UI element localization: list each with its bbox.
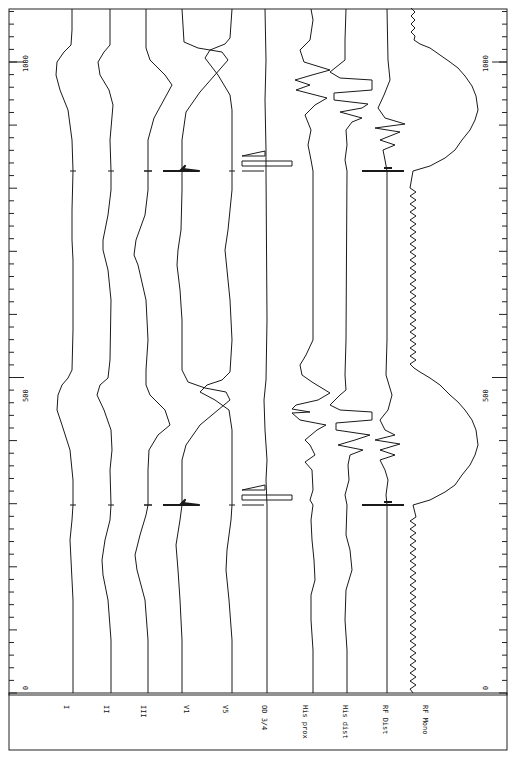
trace-III (134, 9, 172, 693)
right-axis-label-1000: 1000 (482, 55, 490, 72)
label-V1: V1 (182, 705, 190, 713)
right-time-axis (492, 12, 507, 693)
trace-RFMono (410, 8, 478, 693)
label-V5: V5 (221, 705, 229, 713)
right-axis-label-500: 500 (482, 389, 490, 402)
qrs-RFDist-1 (362, 502, 404, 505)
trace-HisDist (330, 9, 372, 693)
label-his-dist: His dist (341, 705, 349, 739)
label-I: I (62, 705, 70, 709)
trace-V5 (200, 9, 232, 693)
right-axis-label-0: 0 (482, 686, 490, 690)
label-his-prox: His prox (301, 705, 309, 739)
plot-frame (9, 9, 507, 695)
qrs-V1-2 (163, 166, 199, 171)
channel-labels: I II III V1 V5 OD 3/4 His prox His dist … (62, 705, 429, 739)
stim-OD-2 (242, 151, 292, 171)
trace-HisProx (292, 9, 330, 693)
spike-II (108, 171, 114, 505)
left-axis-label-1000: 1000 (22, 55, 30, 72)
trace-OD (264, 9, 267, 693)
label-rf-dist: RF Dist (381, 705, 389, 735)
trace-RFDist (375, 9, 405, 693)
label-II: II (102, 705, 110, 713)
left-axis-label-500: 500 (22, 389, 30, 402)
trace-V1 (176, 9, 230, 693)
label-rf-mono: RF Mono (421, 705, 429, 735)
trace-I (56, 9, 73, 693)
label-OD-3-4: OD 3/4 (260, 705, 268, 730)
left-axis-label-0: 0 (22, 686, 30, 690)
left-time-axis (9, 12, 24, 693)
ecg-tracing-chart: 0 500 1000 0 500 1000 (0, 0, 519, 758)
label-III: III (139, 705, 147, 718)
qrs-RFDist-2 (362, 168, 404, 171)
trace-II (97, 9, 113, 693)
label-frame (9, 693, 507, 750)
qrs-V1-1 (163, 500, 199, 505)
